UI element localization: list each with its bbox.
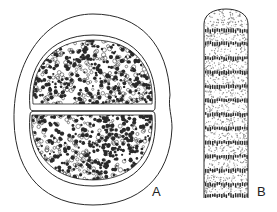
filament-granules xyxy=(203,8,248,198)
upper-cell-granules xyxy=(29,36,158,107)
panel-label-b: B xyxy=(257,185,266,198)
panel-b xyxy=(203,8,248,198)
lower-cell-granules xyxy=(28,111,157,184)
illustration-canvas xyxy=(0,0,277,212)
panel-a xyxy=(14,14,172,205)
panel-label-a: A xyxy=(152,185,161,198)
